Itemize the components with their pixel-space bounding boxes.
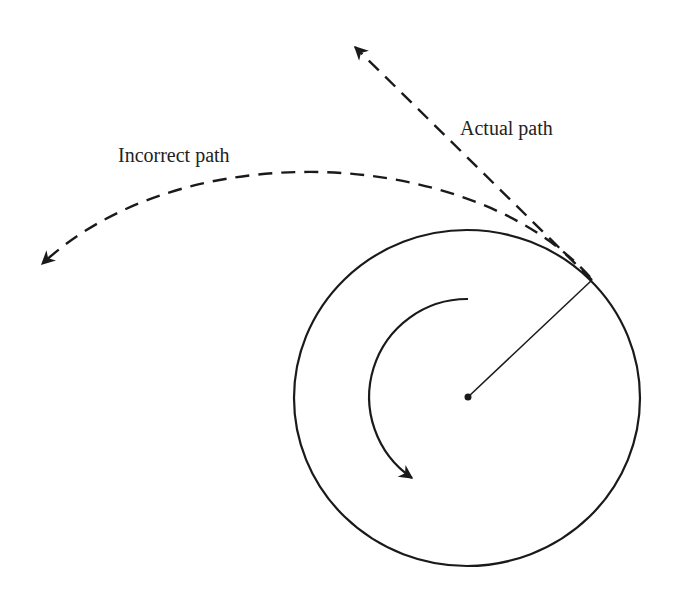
radius-line — [468, 280, 592, 397]
incorrect-path-label: Incorrect path — [118, 144, 230, 167]
center-point — [465, 394, 472, 401]
incorrect-path-curve — [42, 172, 590, 277]
circular-motion-diagram: Actual path Incorrect path — [0, 0, 679, 607]
actual-path-label: Actual path — [460, 117, 553, 140]
rotation-arrow-icon — [369, 299, 468, 478]
